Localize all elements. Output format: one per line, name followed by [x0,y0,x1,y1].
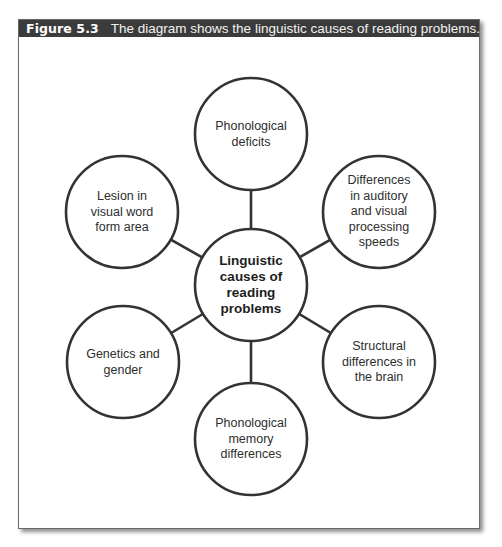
node-label-line: causes of [201,269,301,285]
node-label-line: Structural [329,339,429,355]
node-label-line: speeds [329,235,429,251]
node-label-line: memory [201,431,301,447]
node-label-top: Phonologicaldeficits [201,119,301,150]
node-label-bottom: Phonologicalmemorydifferences [201,416,301,463]
central-node-label: Linguisticcauses ofreadingproblems [201,253,301,317]
node-label-lower-right: Structuraldifferences inthe brain [329,339,429,386]
node-label-line: Genetics and [73,347,173,363]
node-label-lower-left: Genetics andgender [73,347,173,378]
node-label-line: Lesion in [72,189,172,205]
node-label-line: Linguistic [201,253,301,269]
node-label-line: deficits [201,134,301,150]
node-label-line: reading [201,285,301,301]
node-label-line: Phonological [201,416,301,432]
node-label-line: the brain [329,370,429,386]
node-label-upper-right: Differencesin auditoryand visualprocessi… [329,173,429,251]
node-label-line: and visual [329,204,429,220]
node-label-line: processing [329,220,429,236]
node-label-line: form area [72,220,172,236]
node-label-line: differences in [329,354,429,370]
node-label-line: visual word [72,204,172,220]
node-label-upper-left: Lesion invisual wordform area [72,189,172,236]
node-label-line: differences [201,447,301,463]
node-label-line: Phonological [201,119,301,135]
node-label-line: problems [201,301,301,317]
node-label-line: in auditory [329,189,429,205]
node-label-line: gender [73,362,173,378]
node-label-line: Differences [329,173,429,189]
